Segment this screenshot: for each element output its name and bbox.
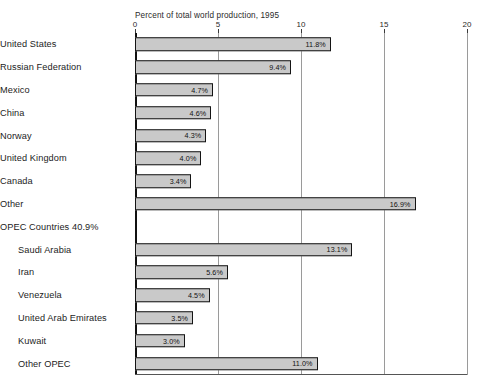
bar-value-label: 11.0% [292,359,312,368]
bar: 3.4% [135,174,191,188]
category-label: United Arab Emirates [0,313,128,323]
category-label: Mexico [0,85,128,95]
bar: 4.7% [135,83,213,97]
bar: 5.6% [135,266,228,280]
bar: 4.5% [135,288,210,302]
bar: 11.8% [135,38,331,52]
category-label: OPEC Countries 40.9% [0,222,128,232]
bar: 9.4% [135,60,291,74]
bar-row: Other16.9% [0,193,488,216]
bar-row: Other OPEC11.0% [0,352,488,375]
bar-row: Venezuela4.5% [0,284,488,307]
category-label: Saudi Arabia [0,245,128,255]
category-label: Canada [0,176,128,186]
category-label: Other [0,199,128,209]
bar-value-label: 4.5% [188,291,205,300]
x-axis-tick-label: 20 [463,20,472,29]
bar-row: Norway4.3% [0,124,488,147]
bar: 13.1% [135,243,352,257]
bar-row: Russian Federation9.4% [0,56,488,79]
chart-title: Percent of total world production, 1995 [135,11,279,20]
x-axis-tick-label: 0 [133,20,137,29]
bar-value-label: 9.4% [269,63,286,72]
category-label: Iran [0,267,128,277]
bar-value-label: 3.4% [170,177,187,186]
category-label: China [0,108,128,118]
bar: 4.3% [135,129,206,143]
category-label: United Kingdom [0,153,128,163]
bar-row: Mexico4.7% [0,79,488,102]
x-axis-tick-label: 15 [380,20,389,29]
category-label: United States [0,39,128,49]
bar-value-label: 5.6% [206,268,223,277]
bar-row: Saudi Arabia13.1% [0,238,488,261]
bar-row: Kuwait3.0% [0,329,488,352]
bar-row: Canada3.4% [0,170,488,193]
bar-value-label: 11.8% [306,40,326,49]
group-heading-row: OPEC Countries 40.9% [0,215,488,238]
bar-value-label: 4.3% [185,131,202,140]
bar-row: China4.6% [0,101,488,124]
bar-row: United Kingdom4.0% [0,147,488,170]
bar-value-label: 3.0% [163,336,180,345]
bar: 4.6% [135,106,211,120]
category-label: Russian Federation [0,62,128,72]
bar: 3.5% [135,311,193,325]
bar-value-label: 4.0% [180,154,197,163]
category-label: Venezuela [0,290,128,300]
bar: 3.0% [135,334,185,348]
category-label: Kuwait [0,336,128,346]
category-label: Other OPEC [0,359,128,369]
x-axis-tick-label: 5 [216,20,220,29]
bar-row: United States11.8% [0,33,488,56]
bar-value-label: 13.1% [327,245,348,254]
bar: 11.0% [135,357,318,371]
bar-row: Iran5.6% [0,261,488,284]
category-label: Norway [0,131,128,141]
x-axis-tick-label: 10 [297,20,306,29]
bar-value-label: 3.5% [171,313,188,322]
bar-value-label: 4.6% [190,108,207,117]
bar-row: United Arab Emirates3.5% [0,307,488,330]
bar-chart: Percent of total world production, 1995 … [0,0,488,387]
bar: 16.9% [135,197,416,211]
bar-value-label: 4.7% [191,85,208,94]
bar: 4.0% [135,152,201,166]
bar-value-label: 16.9% [390,199,411,208]
